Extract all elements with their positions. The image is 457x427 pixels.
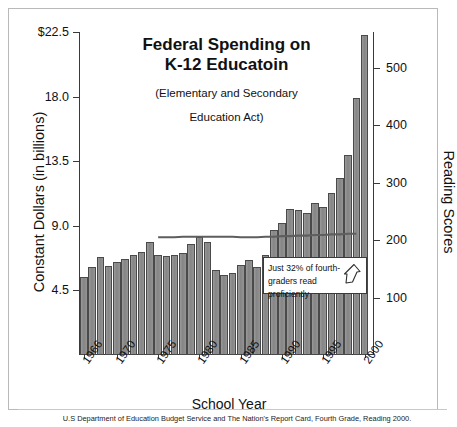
y-axis-right-tick-label: 100 [386,291,407,305]
reading-score-line [79,32,373,355]
y-axis-right-tick-label: 400 [386,118,407,132]
annotation-line-2: graders read proficiently [268,275,344,301]
y-axis-left-label: Constant Dollars (in billions) [31,52,47,352]
y-axis-right-label: Reading Scores [441,52,457,352]
y-axis-right-tick-label: 200 [386,233,407,247]
annotation-line-1: Just 32% of fourth- [268,262,344,275]
y-axis-right-tick [374,68,380,69]
arrow-up-right-icon [343,263,363,285]
y-axis-right-tick-label: 300 [386,176,407,190]
y-axis-right-tick [374,183,380,184]
source-divider [18,409,447,410]
reading-score-polyline [158,234,356,238]
chart-frame: Federal Spending on K-12 Educatoin (Elem… [8,8,438,410]
y-axis-left-label-wrap: Constant Dollars (in billions) [9,9,39,427]
y-axis-right-tick [374,240,380,241]
y-axis-right-tick [374,125,380,126]
y-axis-right-tick [374,298,380,299]
source-note: U.S Department of Education Budget Servi… [37,414,437,423]
y-axis-right-line [373,32,374,355]
y-axis-right-tick-label: 500 [386,61,407,75]
annotation-text: Just 32% of fourth- graders read profici… [268,262,344,301]
plot-area [79,32,373,355]
annotation-callout: Just 32% of fourth- graders read profici… [263,257,367,294]
